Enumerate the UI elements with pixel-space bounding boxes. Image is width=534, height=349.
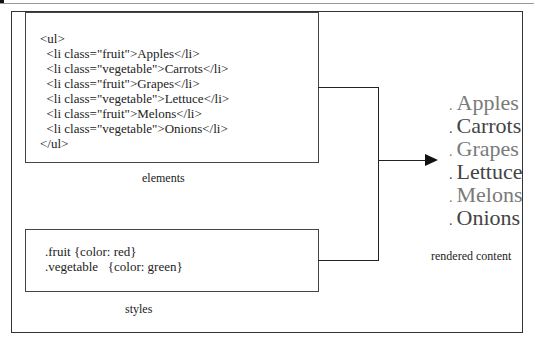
arrow-shaft	[378, 160, 426, 161]
elements-caption: elements	[142, 171, 185, 186]
code-line: <li class="vegetable">Onions</li>	[40, 121, 228, 136]
code-line: <li class="vegetable">Lettuce</li>	[40, 91, 229, 106]
code-line: <li class="fruit">Melons</li>	[40, 106, 202, 121]
rendered-caption: rendered content	[431, 249, 511, 264]
code-line: <ul>	[40, 31, 65, 46]
code-line: <li class="vegetable">Carrots</li>	[40, 61, 228, 76]
css-rule: .fruit {color: red}	[45, 244, 137, 259]
connector-elements	[318, 87, 379, 88]
arrow-right-icon	[425, 154, 438, 166]
rendered-item-vegetable: .Onions	[449, 206, 520, 232]
code-line: <li class="fruit">Apples</li>	[40, 46, 200, 61]
css-rule: .vegetable {color: green}	[45, 259, 183, 274]
connector-styles	[318, 260, 379, 261]
code-line: </ul>	[40, 136, 68, 151]
header-rule	[0, 3, 534, 4]
styles-caption: styles	[125, 302, 152, 317]
connector-merge	[378, 87, 379, 261]
code-line: <li class="fruit">Grapes</li>	[40, 76, 200, 91]
